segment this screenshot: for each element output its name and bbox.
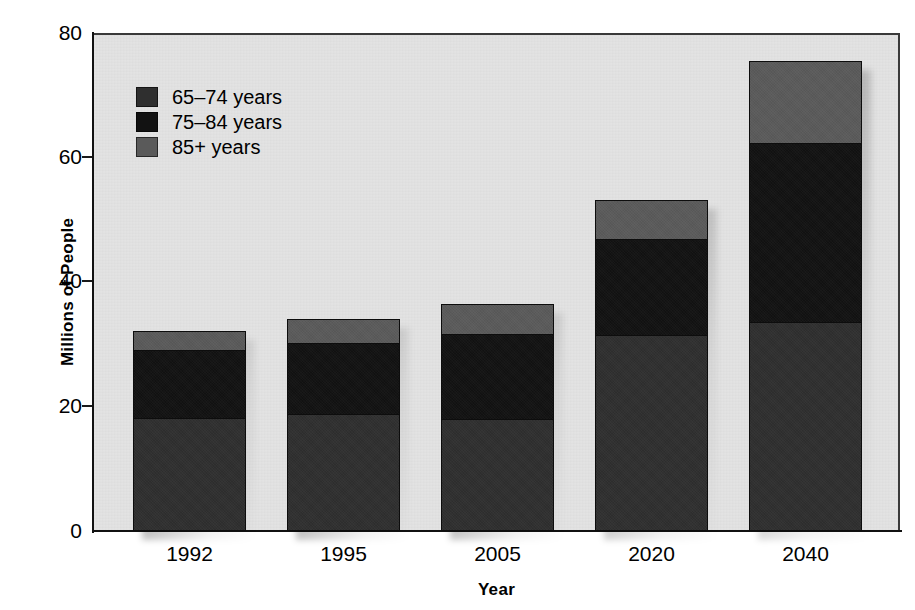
legend-item: 65–74 years — [136, 84, 282, 109]
legend-swatch-icon — [136, 87, 158, 107]
legend-item: 75–84 years — [136, 109, 282, 134]
segment-texture — [596, 336, 707, 530]
stacked-bar-chart-figure: Millions of People 80 60 40 20 0 65–74 y… — [0, 0, 915, 610]
x-axis-title: Year — [93, 580, 900, 600]
x-tick-label-2040: 2040 — [749, 543, 862, 564]
bar-segment[interactable] — [750, 62, 861, 143]
bar-segment[interactable] — [596, 201, 707, 239]
x-tick-label-1995: 1995 — [287, 543, 400, 564]
legend-item-label: 85+ years — [172, 137, 260, 157]
chart-legend: 65–74 years75–84 years85+ years — [136, 84, 282, 159]
bar-stack[interactable] — [287, 319, 400, 531]
legend-item: 85+ years — [136, 134, 282, 159]
bar-segment[interactable] — [442, 334, 553, 419]
legend-swatch-icon — [136, 112, 158, 132]
bar-segment[interactable] — [442, 305, 553, 334]
x-tick-label-2020: 2020 — [595, 543, 708, 564]
bar-segment[interactable] — [442, 419, 553, 530]
segment-texture — [442, 305, 553, 334]
x-tick-label-1992: 1992 — [133, 543, 246, 564]
bar-segment[interactable] — [134, 332, 245, 350]
segment-texture — [288, 415, 399, 530]
bar-stack[interactable] — [749, 61, 862, 531]
bar-stack[interactable] — [595, 200, 708, 531]
segment-texture — [288, 344, 399, 415]
bar-stack[interactable] — [441, 304, 554, 531]
legend-item-label: 65–74 years — [172, 87, 282, 107]
segment-texture — [288, 320, 399, 342]
bar-segment[interactable] — [288, 320, 399, 342]
bar-segment[interactable] — [134, 350, 245, 418]
bar-segment[interactable] — [134, 418, 245, 530]
segment-texture — [442, 420, 553, 530]
bar-segment[interactable] — [750, 322, 861, 530]
segment-texture — [442, 335, 553, 419]
bar-stack[interactable] — [133, 331, 246, 531]
segment-texture — [134, 351, 245, 418]
x-tick-label-2005: 2005 — [441, 543, 554, 564]
bar-segment[interactable] — [596, 335, 707, 530]
segment-texture — [750, 323, 861, 530]
bar-segment[interactable] — [288, 414, 399, 530]
segment-texture — [134, 332, 245, 350]
bar-segment[interactable] — [750, 143, 861, 322]
bar-segment[interactable] — [288, 343, 399, 415]
bar-segment[interactable] — [596, 239, 707, 336]
legend-item-label: 75–84 years — [172, 112, 282, 132]
legend-swatch-icon — [136, 137, 158, 157]
segment-texture — [750, 62, 861, 143]
segment-texture — [596, 240, 707, 336]
segment-texture — [750, 144, 861, 322]
segment-texture — [134, 419, 245, 530]
segment-texture — [596, 201, 707, 239]
